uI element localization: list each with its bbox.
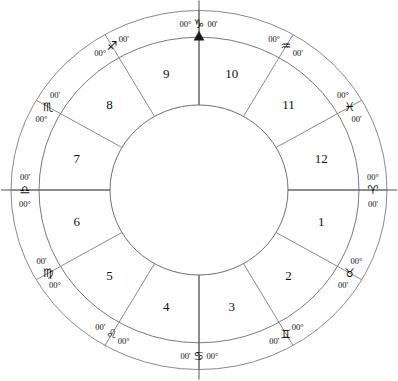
sign-minute-scorpio: 00' [50,90,61,100]
astrology-chart-wheel: ♈00°00'♉00°00'♊00°00'♋00°00'♌00°00'♍00°0… [0,0,398,381]
house-number-9: 9 [163,66,170,81]
sign-degree-gemini: 00° [292,322,304,332]
house-cusp-spoke-2 [276,232,337,266]
sign-glyph-libra: ♎ [20,183,31,197]
sign-minute-leo: 00' [95,322,106,332]
sign-glyph-leo: ♌ [107,327,118,341]
house-number-1: 1 [318,214,325,229]
sign-glyph-gemini: ♊ [281,327,292,341]
sign-glyph-pisces: ♓ [344,100,355,114]
sign-minute-aquarius: 00' [293,48,304,58]
sign-degree-scorpio: 00° [36,114,48,124]
midheaven-arrow-marker [194,31,204,40]
house-number-11: 11 [282,97,295,112]
sign-label-aries: ♈00°00' [367,172,379,209]
sign-minute-virgo: 00' [37,256,48,266]
house-number-4: 4 [163,299,170,314]
sign-minute-libra: 00' [20,172,31,182]
sign-minute-capricorn: 00' [207,19,218,29]
sign-degree-virgo: 00° [49,280,61,290]
sign-glyph-scorpio: ♏ [43,100,54,114]
house-cusp-spoke-3 [244,264,280,323]
sign-degree-capricorn: 00° [180,19,192,29]
house-number-5: 5 [106,268,113,283]
sign-degree-aries: 00° [367,172,379,182]
sign-degree-sagittarius: 00° [94,48,106,58]
mc-arrow-icon [194,31,204,40]
house-cusp-spoke-12 [276,114,337,148]
sign-degree-taurus: 00° [350,256,362,266]
sign-glyph-capricorn: ♑ [194,17,205,31]
house-cusp-spoke-11 [244,58,280,117]
house-cusp-spoke-6 [60,232,121,266]
house-number-10: 10 [225,66,238,81]
house-cusp-spoke-9 [119,58,155,117]
house-number-2: 2 [285,268,292,283]
house-number-7: 7 [74,151,81,166]
sign-minute-aries: 00' [368,199,379,209]
sign-glyph-sagittarius: ♐ [107,39,118,53]
house-number-8: 8 [106,97,113,112]
center-hub-circle [110,105,288,275]
sign-minute-gemini: 00' [269,336,280,346]
house-cusp-spoke-8 [60,114,121,148]
house-number-6: 6 [74,214,81,229]
sign-degree-libra: 00° [19,199,31,209]
sign-label-libra: ♎00°00' [19,172,31,209]
sign-label-capricorn: ♑00°00' [180,17,218,31]
sign-minute-sagittarius: 00' [119,34,130,44]
sign-glyph-aries: ♈ [368,183,379,197]
sign-minute-taurus: 00' [338,280,349,290]
sign-minute-cancer: 00' [180,351,191,361]
house-number-12: 12 [315,151,328,166]
house-cusp-spoke-5 [119,264,155,323]
sign-glyph-taurus: ♉ [344,266,355,280]
sign-label-cancer: ♋00°00' [180,349,218,363]
house-number-3: 3 [228,299,235,314]
sign-glyph-aquarius: ♒ [281,39,292,53]
sign-glyph-virgo: ♍ [43,266,54,280]
sign-degree-leo: 00° [118,336,130,346]
sign-degree-cancer: 00° [207,351,219,361]
sign-degree-aquarius: 00° [268,34,280,44]
sign-minute-pisces: 00' [351,114,362,124]
sign-glyph-cancer: ♋ [194,349,205,363]
sign-degree-pisces: 00° [337,90,349,100]
